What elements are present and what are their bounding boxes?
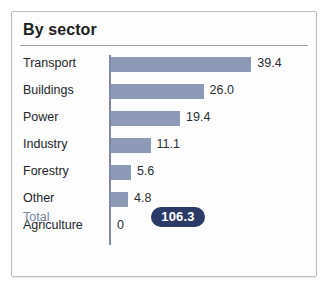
- bar-value-label: 4.8: [134, 191, 151, 205]
- bar: [111, 57, 251, 72]
- bar: [111, 84, 204, 99]
- title-divider: [20, 45, 308, 46]
- bar: [111, 165, 131, 180]
- bar-row: Buildings26.0: [12, 79, 316, 106]
- bar-category-label: Buildings: [23, 83, 74, 97]
- bar-chart: Transport39.4Buildings26.0Power19.4Indus…: [12, 52, 316, 274]
- bar-category-label: Forestry: [23, 164, 69, 178]
- bar: [111, 138, 151, 153]
- bar: [111, 111, 180, 126]
- bar-value-label: 11.1: [157, 137, 180, 151]
- bar-category-label: Power: [23, 110, 58, 124]
- page-title: By sector: [23, 21, 97, 39]
- bar-category-label: Industry: [23, 137, 67, 151]
- bar-value-label: 19.4: [186, 110, 210, 124]
- total-badge: 106.3: [151, 207, 205, 227]
- bar-category-label: Other: [23, 191, 54, 205]
- total-row: Total 106.3: [12, 205, 316, 233]
- bar-value-label: 39.4: [257, 56, 281, 70]
- bar-category-label: Transport: [23, 56, 76, 70]
- bar-row: Industry11.1: [12, 133, 316, 160]
- by-sector-card: By sector Transport39.4Buildings26.0Powe…: [11, 11, 317, 277]
- bar-row: Transport39.4: [12, 52, 316, 79]
- bar-value-label: 5.6: [137, 164, 154, 178]
- bar-row: Power19.4: [12, 106, 316, 133]
- bar-value-label: 26.0: [210, 83, 234, 97]
- bar-row: Forestry5.6: [12, 160, 316, 187]
- total-label: Total: [23, 210, 49, 224]
